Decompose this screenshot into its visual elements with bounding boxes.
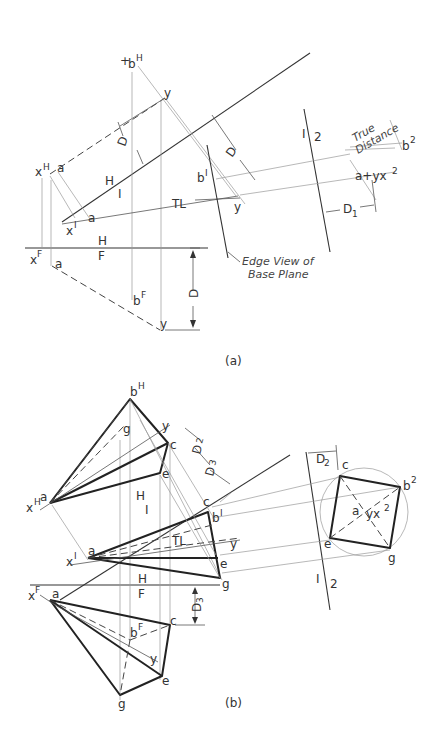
dim-d-front: D: [187, 289, 201, 298]
descriptive-geometry-figure: D D D D 1 b H + y x H a H I x I a TL b I…: [0, 0, 439, 740]
label-b2: b: [402, 139, 410, 153]
label-x1: x: [66, 224, 73, 238]
label-g2: g: [388, 551, 396, 565]
annotation-base-plane: Base Plane: [248, 268, 309, 281]
fold-h1-label-h-b: H: [136, 489, 145, 503]
fold-hf-label-f-b: F: [138, 587, 145, 601]
label-yF-b: y: [150, 652, 157, 666]
label-cF: c: [170, 614, 177, 628]
dim-d-right: D: [223, 144, 240, 160]
label-yx2: yx: [366, 507, 380, 521]
label-gF: g: [118, 697, 126, 711]
label-aF: a: [55, 257, 62, 271]
svg-text:3: 3: [207, 458, 218, 466]
label-aF-b: a: [52, 587, 59, 601]
caption-a: (a): [225, 354, 242, 368]
svg-text:1: 1: [352, 209, 358, 219]
label-b1-b: b: [212, 511, 220, 525]
label-yH: y: [162, 419, 169, 433]
fold-12-label-1: I: [302, 127, 306, 141]
svg-text:I: I: [74, 551, 77, 561]
label-e1: e: [220, 557, 227, 571]
label-a1-b: a: [88, 544, 95, 558]
fold-h1-label-h: H: [105, 174, 114, 188]
svg-text:H: H: [43, 162, 50, 172]
fold-line-1-2-b: [306, 452, 330, 610]
svg-text:I: I: [220, 508, 223, 518]
label-c1: c: [203, 495, 210, 509]
label-aH-b: a: [40, 490, 47, 504]
svg-text:F: F: [35, 585, 40, 595]
label-e2: e: [324, 537, 331, 551]
svg-text:H: H: [136, 53, 143, 63]
label-y1: y: [234, 200, 241, 214]
edge-view-base-plane: [207, 145, 228, 258]
dim-d3-front: D: [190, 603, 204, 612]
svg-text:2: 2: [410, 135, 416, 145]
label-b1: b: [197, 171, 205, 185]
label-a2: a+yx: [355, 169, 387, 183]
svg-text:F: F: [141, 290, 146, 300]
label-xH: x: [35, 165, 42, 179]
label-gH: g: [123, 422, 131, 436]
svg-text:2: 2: [324, 458, 330, 468]
fold-hf-label-f: F: [98, 249, 105, 263]
fold-12-label-1-b: I: [316, 572, 320, 586]
label-eH: e: [162, 467, 169, 481]
fold-h1-label-1-b: I: [145, 503, 149, 517]
label-c2: c: [342, 458, 349, 472]
fold-12-label-2: 2: [314, 130, 322, 144]
fold-hf-label-h-b: H: [138, 572, 147, 586]
svg-text:2: 2: [194, 436, 205, 444]
figure-b: D 3 D 2 D 3 D 2 b H g y c e a x H H I c …: [26, 381, 417, 711]
svg-text:F: F: [138, 622, 143, 632]
label-y-top: y: [164, 86, 171, 100]
label-cH: c: [170, 438, 177, 452]
svg-text:H: H: [34, 497, 41, 507]
label-y1-b: y: [230, 537, 237, 551]
pyramid-auxiliary-view: [88, 512, 220, 578]
label-bH-b: b: [130, 385, 138, 399]
label-xH-b: x: [26, 501, 33, 515]
line-xy-horizontal-view: [50, 98, 165, 174]
svg-text:2: 2: [411, 475, 417, 485]
fold-hf-label-h: H: [98, 234, 107, 248]
label-a2-b: a: [352, 504, 359, 518]
svg-text:2: 2: [384, 503, 390, 513]
svg-text:H: H: [138, 381, 145, 391]
svg-text:F: F: [37, 249, 42, 259]
label-eF: e: [162, 674, 169, 688]
dim-d-top: D: [115, 135, 131, 148]
fold-12-label-2-b: 2: [330, 577, 338, 591]
label-bF: b: [133, 294, 141, 308]
svg-text:+: +: [120, 54, 130, 68]
pyramid-front-view: [50, 600, 170, 695]
label-x1-b: x: [66, 555, 73, 569]
caption-b: (b): [225, 696, 242, 710]
svg-text:2: 2: [392, 166, 398, 176]
label-a1: a: [88, 211, 95, 225]
label-bF-b: b: [130, 626, 138, 640]
label-tl: TL: [171, 197, 186, 211]
label-b2-b: b: [403, 479, 411, 493]
dim-d1: D: [343, 202, 352, 216]
label-g1: g: [222, 577, 230, 591]
label-aH: a: [57, 161, 64, 175]
annotation-edge-view: Edge View of: [242, 255, 316, 268]
label-yF: y: [160, 317, 167, 331]
svg-text:I: I: [74, 220, 77, 230]
figure-a: D D D D 1 b H + y x H a H I x I a TL b I…: [25, 53, 416, 368]
label-tl-b: TL: [171, 534, 186, 548]
svg-text:I: I: [205, 168, 208, 178]
svg-text:3: 3: [195, 597, 205, 603]
fold-h1-label-1: I: [118, 187, 122, 201]
fold-line-h-1-b: [60, 455, 290, 600]
